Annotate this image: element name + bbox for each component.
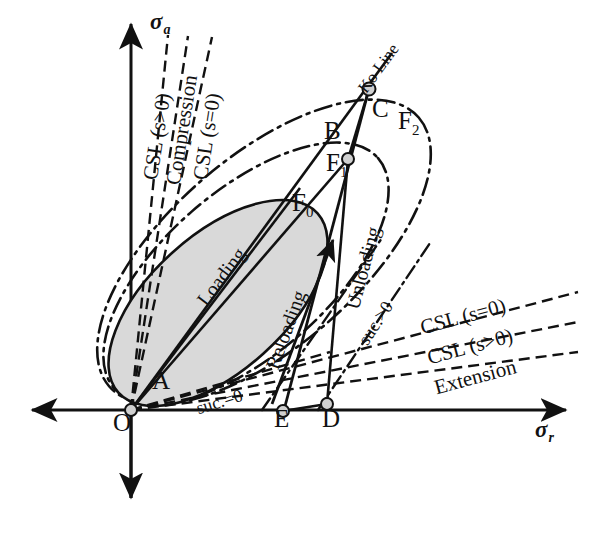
sigma-a-subscript: a xyxy=(163,22,170,37)
f0-subscript: 0 xyxy=(306,204,314,220)
f2-letter: F xyxy=(398,107,412,134)
point-label-e: E xyxy=(274,406,289,431)
sigma-a-glyph: σ xyxy=(150,9,162,34)
stress-path-diagram xyxy=(0,0,594,535)
surface-label-f1: F1 xyxy=(326,150,347,175)
point-label-o: O xyxy=(113,410,131,435)
axis-label-sigma-a: σa xyxy=(150,10,169,33)
point-label-a: A xyxy=(152,368,170,393)
f2-subscript: 2 xyxy=(412,122,420,138)
axis-label-sigma-r: σr xyxy=(535,418,553,441)
point-label-b: B xyxy=(324,118,341,143)
f1-letter: F xyxy=(326,149,340,176)
surface-label-f0: F0 xyxy=(292,190,313,215)
figure-canvas: σa σr O A B C D E F0 F1 F2 CSL (s>0) Com… xyxy=(0,0,594,535)
point-label-c: C xyxy=(372,96,389,121)
f0-letter: F xyxy=(292,189,306,216)
surface-label-f2: F2 xyxy=(398,108,419,133)
sigma-r-glyph: σ xyxy=(535,417,547,442)
point-label-d: D xyxy=(322,406,340,431)
f1-subscript: 1 xyxy=(340,164,348,180)
sigma-r-subscript: r xyxy=(548,430,553,445)
